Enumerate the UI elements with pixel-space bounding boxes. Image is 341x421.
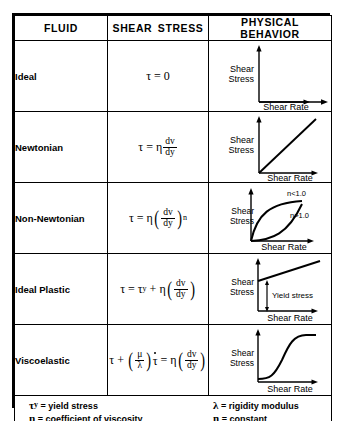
legend-symbol-n: n: [213, 413, 219, 421]
fraction-dv-dy: dv dy: [174, 279, 188, 300]
table-row: Non-Newtonian τ = η ( dv dy ): [15, 183, 332, 254]
table-row: Ideal τ = 0: [15, 41, 332, 112]
fraction-numerator: μ: [135, 350, 144, 361]
x-axis-label: Shear Rate: [267, 384, 313, 394]
symbol-equals: =: [154, 70, 161, 82]
legend-item-rigidity-modulus: λ = rigidity modulus: [213, 400, 299, 413]
symbol-tau: τ: [120, 283, 125, 295]
header-row: FLUID SHEAR STRESS PHYSICAL BEHAVIOR: [15, 16, 332, 41]
graph-ideal: Shear Stress Shear Rate: [209, 41, 332, 112]
graph-svg: Shear Stress Shear Rate: [210, 113, 330, 181]
fraction-denominator: dy: [163, 148, 177, 158]
fraction-dv-dy: dv dy: [163, 137, 177, 158]
y-axis-arrowhead: [256, 116, 261, 123]
y-axis-label-line1: Shear: [230, 135, 254, 145]
table-row: Viscoelastic τ + ( μ λ ) τ =: [15, 325, 332, 396]
paren-open: (: [154, 210, 159, 225]
column-header-shear-stress: SHEAR STRESS: [108, 16, 209, 41]
legend-text: = constant: [222, 414, 267, 421]
x-axis-label: Shear Rate: [263, 102, 309, 110]
fraction-mu-lambda: μ λ: [135, 350, 144, 371]
symbol-eta: η: [170, 354, 176, 366]
x-axis-label: Shear Rate: [267, 313, 313, 323]
legend: τy = yield stress η = coefficient of vis…: [15, 396, 331, 421]
graph-viscoelastic: Shear Stress Shear Rate: [209, 325, 332, 396]
y-axis-label-line1: Shear: [231, 206, 254, 216]
formula-non-newtonian: τ = η ( dv dy ) n: [108, 183, 209, 254]
formula-ideal: τ = 0: [108, 41, 209, 112]
table-row: Newtonian τ = η dv dy: [15, 112, 332, 183]
formula-expression: τ = τy + η ( dv dy ): [120, 279, 196, 300]
symbol-eta: η: [156, 141, 162, 153]
graph-box: Shear Stress Shear Rate n<1.0 n>1.0: [210, 184, 330, 252]
data-curve: [259, 119, 316, 173]
legend-symbol-lambda: λ: [213, 400, 218, 411]
fraction-denominator: dy: [174, 290, 188, 300]
tau-dot-overdot: [154, 352, 156, 354]
exponent-n: n: [183, 214, 187, 222]
legend-text: = coefficient of viscosity: [38, 414, 143, 421]
graph-box: Shear Stress Yield stress Shear Rate: [210, 255, 330, 323]
y-axis-arrowhead: [256, 45, 261, 52]
symbol-plus: +: [117, 354, 124, 366]
column-header-physical-behavior: PHYSICAL BEHAVIOR: [209, 16, 332, 41]
symbol-equals: =: [146, 141, 153, 153]
fluid-classification-table: FLUID SHEAR STRESS PHYSICAL BEHAVIOR Ide…: [12, 13, 330, 408]
legend-text: = rigidity modulus: [221, 401, 299, 411]
formula-expression: τ = η dv dy: [138, 137, 177, 158]
y-axis-arrowhead: [255, 258, 260, 265]
legend-row: τy = yield stress η = coefficient of vis…: [15, 396, 332, 421]
paren-close: ): [190, 281, 195, 296]
symbol-tau-dot: τ: [153, 353, 158, 367]
symbol-eta: η: [147, 212, 153, 224]
data-curve-arrowhead: [321, 99, 328, 104]
formula-ideal-plastic: τ = τy + η ( dv dy ): [108, 254, 209, 325]
legend-column-left: τy = yield stress η = coefficient of vis…: [15, 400, 209, 421]
symbol-eta: η: [159, 283, 165, 295]
fraction-numerator: dv: [161, 208, 175, 219]
fluid-name-viscoelastic: Viscoelastic: [15, 325, 108, 396]
yield-stress-arrowhead-top: [265, 280, 269, 285]
y-axis-arrowhead: [255, 329, 260, 336]
x-axis-label: Shear Rate: [267, 173, 313, 181]
y-axis-label-line2: Stress: [230, 287, 254, 297]
graph-non-newtonian: Shear Stress Shear Rate n<1.0 n>1.0: [209, 183, 332, 254]
paren-open-2: (: [178, 352, 183, 367]
legend-item-viscosity: η = coefficient of viscosity: [29, 413, 209, 421]
y-axis-label-line1: Shear: [231, 277, 254, 287]
symbol-equals: =: [128, 283, 135, 295]
symbol-equals: =: [160, 354, 167, 366]
fraction-denominator: dy: [185, 361, 199, 371]
formula-expression: τ = 0: [146, 70, 170, 82]
table-header: FLUID SHEAR STRESS PHYSICAL BEHAVIOR: [15, 16, 332, 41]
fraction-denominator: dy: [161, 219, 175, 229]
paren-open: (: [167, 281, 172, 296]
fraction-numerator: dv: [185, 350, 199, 361]
legend-cell: τy = yield stress η = coefficient of vis…: [15, 396, 332, 421]
subscript-y: y: [143, 285, 147, 293]
legend-symbol-tau-y: τy: [29, 400, 38, 411]
formula-expression: τ + ( μ λ ) τ = η (: [109, 350, 206, 371]
graph-box: Shear Stress Shear Rate: [210, 42, 330, 110]
annotation-n-less-than-one: n<1.0: [287, 189, 306, 198]
fluid-name-newtonian: Newtonian: [15, 112, 108, 183]
paren-close-2: ): [201, 352, 206, 367]
table-row: Ideal Plastic τ = τy + η ( dv dy: [15, 254, 332, 325]
fluid-name-non-newtonian: Non-Newtonian: [15, 183, 108, 254]
graph-svg: Shear Stress Shear Rate: [210, 42, 330, 110]
annotation-yield-stress: Yield stress: [272, 291, 313, 300]
legend-symbol-eta: η: [29, 413, 35, 421]
fraction-numerator: dv: [163, 137, 177, 148]
legend-column-right: λ = rigidity modulus n = constant: [209, 400, 299, 421]
formula-newtonian: τ = η dv dy: [108, 112, 209, 183]
annotation-n-greater-than-one: n>1.0: [290, 211, 309, 220]
formula-viscoelastic: τ + ( μ λ ) τ = η (: [108, 325, 209, 396]
graph-ideal-plastic: Shear Stress Yield stress Shear Rate: [209, 254, 332, 325]
symbol-tau: τ: [129, 212, 134, 224]
symbol-tau: τ: [146, 70, 151, 82]
fraction-denominator: λ: [135, 361, 144, 371]
paren-open: (: [128, 352, 133, 367]
table: FLUID SHEAR STRESS PHYSICAL BEHAVIOR Ide…: [14, 15, 332, 421]
legend-text: = yield stress: [41, 401, 98, 411]
y-axis-label-line1: Shear: [230, 64, 254, 74]
